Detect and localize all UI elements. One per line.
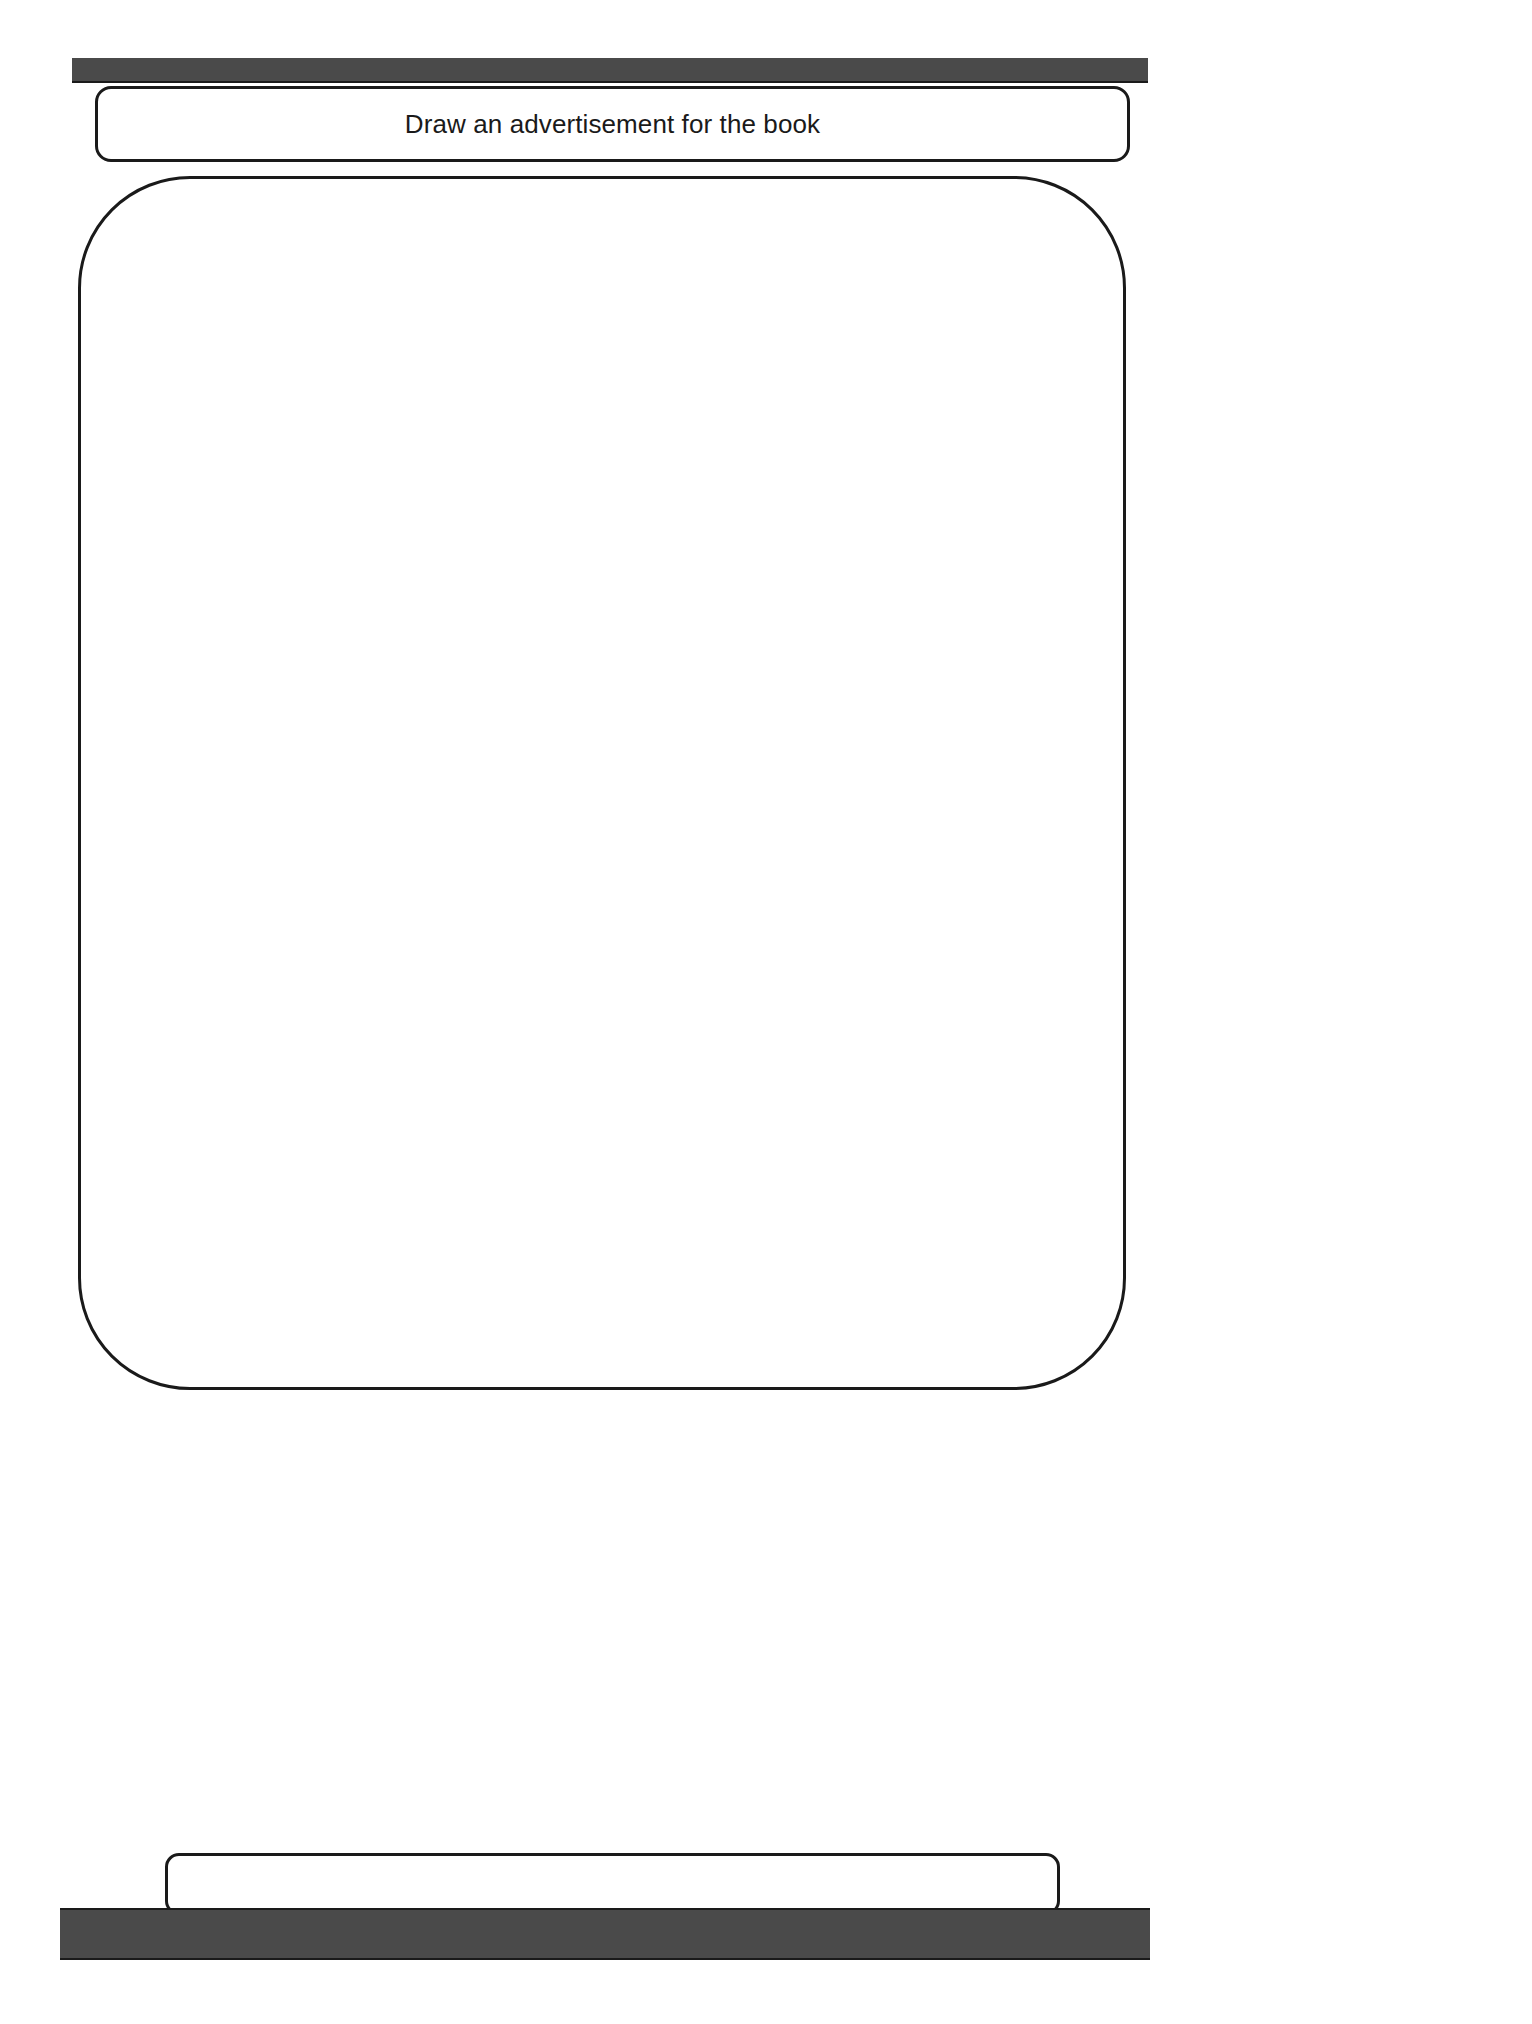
bottom-decorative-bar [60,1908,1150,1960]
worksheet-page: Draw an advertisement for the book [0,0,1532,2024]
answer-input-box[interactable] [165,1853,1060,1915]
page-title: Draw an advertisement for the book [405,111,820,137]
top-decorative-bar [72,58,1148,83]
prompt-title-box: Draw an advertisement for the book [95,86,1130,162]
drawing-canvas-area[interactable] [78,176,1126,1390]
